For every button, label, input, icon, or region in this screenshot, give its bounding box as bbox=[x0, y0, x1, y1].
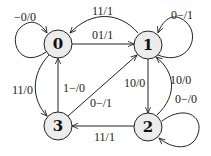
edge-label-1-1: 0−/1 bbox=[171, 8, 193, 22]
edge-label-0-1: 01/1 bbox=[92, 28, 113, 42]
edge-label-3-0: 1−/0 bbox=[63, 81, 85, 95]
edge-1-1 bbox=[158, 17, 193, 58]
state-label-0: 0 bbox=[53, 35, 63, 53]
state-node-1: 1 bbox=[134, 31, 162, 59]
state-label-3: 3 bbox=[53, 117, 63, 135]
edge-label-1-0: 11/1 bbox=[92, 4, 113, 18]
edge-label-2-1: 10/0 bbox=[170, 73, 191, 87]
edge-label-3-1: 0−/1 bbox=[90, 96, 112, 110]
state-node-2: 2 bbox=[134, 113, 162, 141]
edge-2-2 bbox=[159, 113, 199, 147]
edge-label-2-2: 0−/0 bbox=[175, 92, 197, 106]
edge-label-0-0: −0/0 bbox=[14, 10, 36, 24]
edge-label-0-3: 11/0 bbox=[12, 83, 33, 97]
state-node-3: 3 bbox=[44, 112, 72, 140]
state-node-0: 0 bbox=[44, 30, 72, 58]
edge-label-1-2: 10/0 bbox=[124, 76, 145, 90]
state-label-2: 2 bbox=[143, 118, 153, 136]
edge-0-0 bbox=[15, 22, 47, 57]
state-label-1: 1 bbox=[143, 36, 153, 54]
state-diagram: −0/0 11/1 01/1 0−/1 11/0 1−/0 0−/1 10/0 … bbox=[0, 0, 211, 156]
edge-label-2-3: 11/1 bbox=[94, 130, 115, 144]
edge-0-3 bbox=[35, 55, 49, 116]
